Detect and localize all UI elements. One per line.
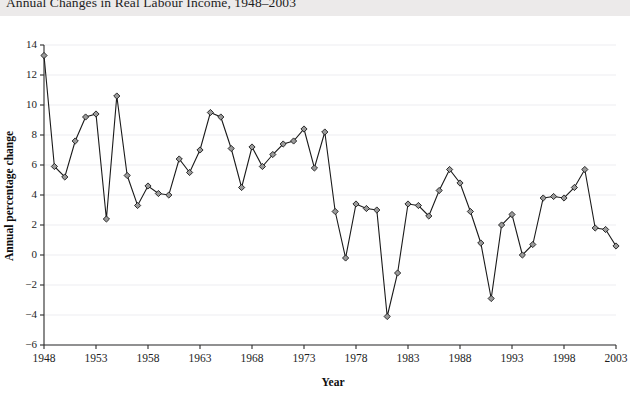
data-point-marker [592,225,598,231]
y-axis-title: Annual percentage change [3,131,16,261]
x-axis: 1948195319581963196819731978198319881993… [33,345,628,364]
data-point-marker [363,205,369,211]
x-axis-tick-label: 1983 [397,352,420,364]
x-axis-tick-label: 1958 [137,352,160,364]
data-point-marker [332,208,338,214]
data-point-marker [603,226,609,232]
x-axis-tick-label: 1998 [553,352,576,364]
y-axis-tick-label: 8 [32,128,38,140]
data-point-marker [124,172,130,178]
y-axis-tick-label: 6 [32,158,38,170]
data-point-marker [374,207,380,213]
data-point-marker [166,192,172,198]
data-point-marker [114,93,120,99]
x-axis-tick-label: 2003 [605,352,628,364]
data-point-marker [467,208,473,214]
y-axis-tick-label: −2 [25,278,37,290]
y-axis-tick-label: −6 [25,338,37,350]
data-point-marker [478,240,484,246]
data-point-marker [384,313,390,319]
data-point-marker [343,255,349,261]
gridlines [44,45,616,345]
data-point-marker [395,270,401,276]
data-point-marker [353,201,359,207]
data-point-marker [322,129,328,135]
data-point-marker [488,295,494,301]
data-point-marker [83,114,89,120]
x-axis-tick-label: 1968 [241,352,264,364]
data-point-marker [41,52,47,58]
y-axis-tick-label: −4 [25,308,37,320]
y-axis-tick-label: 0 [32,248,38,260]
x-axis-title: Year [322,376,345,388]
data-point-marker [135,202,141,208]
y-axis-tick-label: 2 [32,218,38,230]
data-point-marker [613,243,619,249]
data-point-marker [249,144,255,150]
series-line [44,56,616,317]
x-axis-tick-label: 1973 [293,352,316,364]
data-point-marker [551,193,557,199]
data-point-marker [197,147,203,153]
y-axis: −6−4−202468101214 [25,38,44,350]
data-point-marker [72,138,78,144]
data-point-marker [436,187,442,193]
data-point-marker [103,216,109,222]
x-axis-tick-label: 1948 [33,352,56,364]
data-point-marker [93,111,99,117]
x-axis-tick-label: 1978 [345,352,368,364]
data-point-marker [239,184,245,190]
y-axis-tick-label: 12 [26,68,37,80]
plot-area: −6−4−202468101214 1948195319581963196819… [0,0,630,394]
x-axis-tick-label: 1988 [449,352,472,364]
x-axis-tick-label: 1993 [501,352,524,364]
y-axis-tick-label: 10 [26,98,38,110]
data-point-marker [218,114,224,120]
data-point-marker [405,201,411,207]
chart-page: Annual Changes in Real Labour Income, 19… [0,0,630,394]
line-chart: −6−4−202468101214 1948195319581963196819… [0,0,630,394]
data-point-marker [540,195,546,201]
data-point-marker [228,145,234,151]
y-axis-tick-label: 14 [26,38,38,50]
y-axis-tick-label: 4 [32,188,38,200]
data-point-marker [207,109,213,115]
x-axis-tick-label: 1953 [85,352,108,364]
data-point-marker [582,166,588,172]
data-point-marker [311,165,317,171]
x-axis-tick-label: 1963 [189,352,212,364]
data-point-markers [41,52,619,319]
